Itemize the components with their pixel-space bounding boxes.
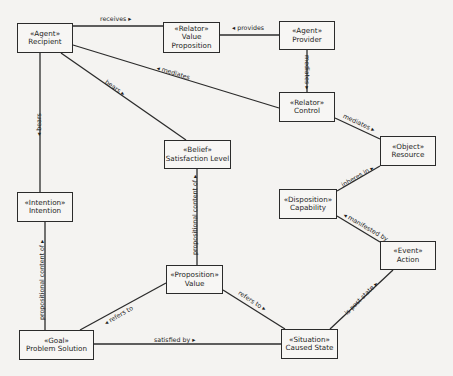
node-action[interactable]: «Event»Action [380, 241, 436, 270]
node-caused-state[interactable]: «Situation»Caused State [281, 329, 338, 359]
edge-label: propositional content of ▸ [191, 175, 198, 255]
node-resource[interactable]: «Object»Resource [380, 136, 436, 166]
edge-label: receives ▸ [100, 15, 131, 22]
node-name: Provider [292, 36, 322, 44]
node-name: Capability [290, 204, 326, 212]
node-name: Control [294, 107, 320, 115]
node-name: Value [185, 280, 205, 288]
node-satisfaction-level[interactable]: «Belief»Satisfaction Level [164, 140, 231, 169]
edge-value-caused_state [223, 290, 285, 329]
node-name: Recipient [28, 38, 61, 46]
node-provider[interactable]: «Agent»Provider [279, 21, 335, 50]
node-name: Problem Solution [26, 345, 87, 353]
edge-label: mediates ▸ [304, 55, 311, 89]
diagram-canvas: «Agent»Recipient«Relator»ValuePropositio… [0, 0, 453, 376]
node-name: Satisfaction Level [166, 155, 229, 163]
edge-label: ◂ bears [35, 113, 42, 136]
node-recipient[interactable]: «Agent»Recipient [17, 23, 73, 53]
node-name: Action [397, 256, 420, 264]
edge-problem_solution-value [80, 283, 166, 330]
node-control[interactable]: «Relator»Control [279, 92, 335, 122]
node-name: Resource [392, 151, 425, 159]
node-name: Proposition [172, 42, 212, 50]
node-value[interactable]: «Proposition»Value [166, 265, 223, 294]
node-problem-solution[interactable]: «Goal»Problem Solution [19, 330, 94, 360]
edge-label: ◂ provides [232, 24, 264, 31]
edge-layer [0, 0, 453, 376]
node-name: Intention [29, 207, 61, 215]
node-value-proposition[interactable]: «Relator»ValueProposition [163, 22, 220, 53]
node-capability[interactable]: «Disposition»Capability [279, 189, 337, 219]
edge-label: satisfied by ▸ [154, 336, 195, 343]
node-intention[interactable]: «Intention»Intention [17, 192, 73, 222]
node-name: Caused State [285, 344, 333, 352]
edge-label: propositional content of ▸ [38, 240, 45, 320]
